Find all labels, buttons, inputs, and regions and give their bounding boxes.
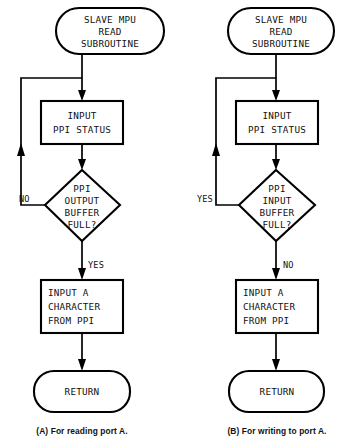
process-action-b-line3: FROM PPI [243,315,289,326]
decision-b-line4: FULL? [263,219,292,230]
arrowhead-return-b [272,359,280,371]
decision-b-line2: INPUT [263,195,292,206]
branch-label-loop-back-b: YES [197,194,213,204]
arrowhead-decision-b [272,159,280,170]
process-action-b-line1: INPUT A [243,287,284,298]
terminal-start-b-line1: SLAVE MPU [255,14,307,25]
process-status-b-line1: INPUT [263,110,292,121]
branch-label-continue-b: NO [283,260,294,270]
flowchart-figure: SLAVE MPU READ SUBROUTINE INPUT PPI STAT… [0,0,338,446]
arrowhead-status-b [272,90,280,101]
arrowhead-loop-back-b [212,143,220,156]
decision-b-line1: PPI [268,183,285,194]
flowchart-b: SLAVE MPU READ SUBROUTINE INPUT PPI STAT… [0,0,338,446]
terminal-start-b-line2: READ [269,26,292,37]
terminal-start-b-line3: SUBROUTINE [252,38,310,49]
process-action-b-line2: CHARACTER [243,301,295,312]
process-status-b [236,101,318,144]
process-status-b-line2: PPI STATUS [248,124,306,135]
terminal-return-b-label: RETURN [260,386,295,397]
decision-b-line3: BUFFER [260,207,295,218]
arrowhead-action-b [272,268,280,280]
caption-b: (B) For writing to port A. [227,426,326,436]
